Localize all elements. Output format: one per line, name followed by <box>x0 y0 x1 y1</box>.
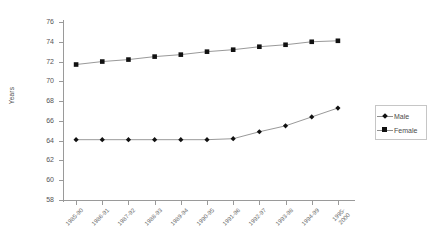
diamond-marker-icon <box>382 113 388 119</box>
legend-line-sample-female <box>376 125 394 135</box>
x-tick-label: 1986-91 <box>82 207 111 236</box>
x-tick <box>155 200 156 205</box>
y-tick-label: 58 <box>24 196 54 203</box>
legend-label-male: Male <box>394 113 409 120</box>
x-tick-label: 1992-97 <box>239 207 268 236</box>
data-point-female <box>257 44 262 49</box>
data-point-female <box>152 54 157 59</box>
data-point-female <box>231 47 236 52</box>
x-tick <box>312 200 313 205</box>
x-tick <box>207 200 208 205</box>
y-tick-label: 74 <box>24 38 54 45</box>
x-tick <box>338 200 339 205</box>
legend-item-female[interactable]: Female <box>376 124 428 136</box>
x-tick <box>286 200 287 205</box>
x-tick-label: 1993-98 <box>265 207 294 236</box>
x-tick-label: 1987-92 <box>108 207 137 236</box>
y-tick-label: 76 <box>24 18 54 25</box>
x-tick <box>76 200 77 205</box>
y-tick <box>59 160 64 161</box>
data-point-male <box>204 137 209 142</box>
x-tick-label: 1994-99 <box>292 207 321 236</box>
x-tick-label: 1989-94 <box>161 207 190 236</box>
y-tick <box>59 121 64 122</box>
data-point-female <box>126 57 131 62</box>
data-point-male <box>257 129 262 134</box>
y-tick-label: 64 <box>24 137 54 144</box>
y-tick <box>59 22 64 23</box>
x-tick-label: 1995-2000 <box>318 207 352 241</box>
y-tick-label: 60 <box>24 176 54 183</box>
data-point-male <box>126 137 131 142</box>
line-chart: Years 58606264666870727476 1985-901986-9… <box>0 0 446 252</box>
x-tick-label: 1991-96 <box>213 207 242 236</box>
series-line-male <box>76 108 338 140</box>
y-tick-label: 72 <box>24 58 54 65</box>
x-tick <box>128 200 129 205</box>
x-tick-label: 1988-93 <box>135 207 164 236</box>
legend: Male Female <box>375 105 427 140</box>
data-point-female <box>205 49 210 54</box>
data-point-male <box>231 136 236 141</box>
legend-label-female: Female <box>394 127 417 134</box>
data-point-female <box>100 59 105 64</box>
data-point-female <box>336 38 341 43</box>
data-point-male <box>283 123 288 128</box>
square-marker-icon <box>382 127 387 132</box>
x-tick <box>259 200 260 205</box>
data-point-female <box>179 52 184 57</box>
y-tick <box>59 81 64 82</box>
data-point-male <box>178 137 183 142</box>
y-axis-line <box>63 20 64 202</box>
x-tick <box>102 200 103 205</box>
data-point-male <box>335 105 340 110</box>
data-point-male <box>100 137 105 142</box>
data-point-male <box>309 114 314 119</box>
series-line-female <box>76 41 338 65</box>
data-point-female <box>74 62 79 67</box>
y-tick-label: 68 <box>24 97 54 104</box>
legend-item-male[interactable]: Male <box>376 110 428 122</box>
y-tick <box>59 200 64 201</box>
data-point-female <box>283 42 288 47</box>
data-point-female <box>309 39 314 44</box>
x-tick-label: 1990-95 <box>187 207 216 236</box>
x-tick-label: 1985-90 <box>56 207 85 236</box>
y-tick-label: 70 <box>24 77 54 84</box>
x-tick <box>181 200 182 205</box>
y-tick-label: 66 <box>24 117 54 124</box>
y-tick <box>59 141 64 142</box>
legend-line-sample-male <box>376 111 394 121</box>
data-point-male <box>73 137 78 142</box>
x-tick <box>233 200 234 205</box>
y-tick-label: 62 <box>24 156 54 163</box>
y-tick <box>59 180 64 181</box>
y-axis-title: Years <box>8 71 15 121</box>
y-tick <box>59 42 64 43</box>
data-point-male <box>152 137 157 142</box>
y-tick <box>59 62 64 63</box>
y-tick <box>59 101 64 102</box>
